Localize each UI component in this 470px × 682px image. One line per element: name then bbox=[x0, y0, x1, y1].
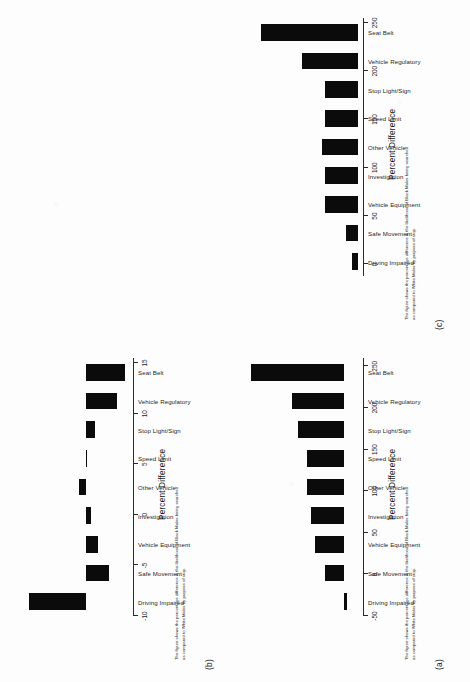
category-tick: Safe Movement bbox=[366, 219, 432, 248]
value-tick bbox=[364, 215, 368, 216]
bar-slot bbox=[244, 104, 363, 133]
category-tick: Stop Light/Sign bbox=[366, 75, 432, 104]
bar-slot bbox=[244, 161, 363, 190]
panel-a-caption-line1: The figure shows the percentage differen… bbox=[404, 487, 411, 660]
panel-c-axis-title: Percent Difference bbox=[388, 109, 397, 180]
bar-slot bbox=[14, 587, 133, 616]
bar bbox=[302, 53, 357, 70]
value-tick bbox=[364, 70, 368, 71]
category-label: Seat Belt bbox=[138, 369, 164, 376]
value-tick-label: -50 bbox=[371, 611, 378, 620]
category-label: Stop Light/Sign bbox=[368, 86, 411, 93]
bar-slot bbox=[244, 190, 363, 219]
category-label: Stop Light/Sign bbox=[138, 426, 181, 433]
category-tick: Investigation bbox=[366, 501, 432, 530]
scanned-page: (a) Driving ImpairedSafe MovementVehicle… bbox=[0, 0, 470, 682]
bar bbox=[86, 565, 109, 582]
bar-slot bbox=[14, 473, 133, 502]
bar-slot bbox=[244, 415, 363, 444]
bar bbox=[325, 167, 357, 184]
category-label: Investigation bbox=[368, 172, 404, 179]
value-tick-label: 15 bbox=[141, 360, 148, 367]
category-label: Vehicle Regulatory bbox=[368, 57, 421, 64]
bar bbox=[292, 393, 343, 410]
bar-slot bbox=[14, 358, 133, 387]
panel-a: (a) Driving ImpairedSafe MovementVehicle… bbox=[238, 348, 460, 670]
panel-b-value-axis: -10-5051015 bbox=[134, 358, 135, 616]
panel-b-caption: The figure shows the percentage differen… bbox=[174, 487, 187, 660]
category-label: Stop Light/Sign bbox=[368, 426, 411, 433]
bar bbox=[352, 253, 357, 270]
value-tick-label: -10 bbox=[141, 611, 148, 620]
value-tick bbox=[364, 615, 368, 616]
value-tick bbox=[134, 615, 138, 616]
panel-b: (b) Driving ImpairedSafe MovementVehicle… bbox=[8, 348, 232, 670]
bar-slot bbox=[244, 133, 363, 162]
bar bbox=[344, 593, 347, 610]
category-tick: Stop Light/Sign bbox=[136, 415, 202, 444]
bar bbox=[325, 110, 358, 127]
value-tick bbox=[134, 564, 138, 565]
bar-slot bbox=[244, 219, 363, 248]
panel-b-bars bbox=[14, 358, 133, 616]
panel-a-bars bbox=[244, 358, 363, 616]
value-tick-label: 0 bbox=[371, 573, 378, 577]
panel-b-caption-line2: as compared to White Males by purpose of… bbox=[181, 487, 188, 660]
panel-a-tag: (a) bbox=[434, 659, 444, 670]
value-tick bbox=[134, 514, 138, 515]
panel-a-axis-title: Percent Difference bbox=[388, 449, 397, 520]
panel-b-category-axis: Driving ImpairedSafe MovementVehicle Equ… bbox=[136, 358, 202, 616]
bar-slot bbox=[14, 530, 133, 559]
bar bbox=[261, 24, 358, 41]
bar-slot bbox=[244, 587, 363, 616]
value-tick-label: 50 bbox=[371, 213, 378, 220]
figure-canvas: (a) Driving ImpairedSafe MovementVehicle… bbox=[0, 0, 470, 682]
category-tick: Stop Light/Sign bbox=[366, 415, 432, 444]
bar-slot bbox=[244, 473, 363, 502]
value-tick bbox=[364, 167, 368, 168]
bar bbox=[86, 450, 88, 467]
panel-a-value-axis: -50050100150200250 bbox=[364, 358, 365, 616]
panel-c-caption: The figure shows the percentage differen… bbox=[404, 147, 417, 320]
value-tick-label: 150 bbox=[371, 114, 378, 125]
value-tick-label: 5 bbox=[141, 462, 148, 466]
value-tick bbox=[134, 463, 138, 464]
bar bbox=[307, 479, 344, 496]
category-label: Other Vehicle bbox=[368, 143, 406, 150]
value-tick-label: -5 bbox=[141, 563, 148, 569]
bar-slot bbox=[14, 387, 133, 416]
panel-a-plot-area bbox=[244, 358, 364, 616]
bar bbox=[346, 225, 358, 242]
value-tick bbox=[364, 365, 368, 366]
bar-slot bbox=[244, 75, 363, 104]
category-label: Seat Belt bbox=[368, 29, 394, 36]
value-tick bbox=[134, 362, 138, 363]
value-tick-label: 250 bbox=[371, 361, 378, 372]
bar-slot bbox=[244, 47, 363, 76]
panel-c-tag: (c) bbox=[434, 319, 444, 330]
bar-slot bbox=[244, 530, 363, 559]
category-label: Other Vehicle bbox=[138, 483, 176, 490]
value-tick-label: 0 bbox=[371, 263, 378, 267]
value-tick bbox=[134, 413, 138, 414]
value-tick-label: 100 bbox=[371, 162, 378, 173]
bar bbox=[86, 393, 117, 410]
bar-slot bbox=[244, 358, 363, 387]
panel-b-caption-line1: The figure shows the percentage differen… bbox=[174, 487, 181, 660]
bar bbox=[311, 507, 344, 524]
bar bbox=[86, 507, 91, 524]
bar-slot bbox=[244, 247, 363, 276]
bar bbox=[307, 450, 344, 467]
value-tick bbox=[364, 118, 368, 119]
value-tick bbox=[364, 490, 368, 491]
value-tick bbox=[364, 532, 368, 533]
panel-c-plot-area bbox=[244, 18, 364, 276]
panel-c: (c) Driving ImpairedSafe MovementVehicle… bbox=[238, 8, 460, 330]
bar-slot bbox=[244, 501, 363, 530]
panel-c-value-axis: 050100150200250 bbox=[364, 18, 365, 276]
category-tick: Vehicle Equipment bbox=[136, 530, 202, 559]
bar-slot bbox=[14, 415, 133, 444]
bar bbox=[298, 421, 344, 438]
value-tick bbox=[364, 22, 368, 23]
value-tick-label: 10 bbox=[141, 410, 148, 417]
